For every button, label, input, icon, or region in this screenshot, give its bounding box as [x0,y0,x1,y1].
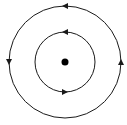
inner-circle-arrow-top-icon [62,29,68,35]
outer-circle-arrow-top-icon [62,3,68,9]
outer-circle-arrow-right-icon [118,59,124,65]
inner-circle-arrow-bottom-icon [62,89,68,95]
concentric-circles-diagram [0,0,127,125]
outer-circle-arrow-left-icon [6,59,12,65]
center-dot [62,59,69,66]
